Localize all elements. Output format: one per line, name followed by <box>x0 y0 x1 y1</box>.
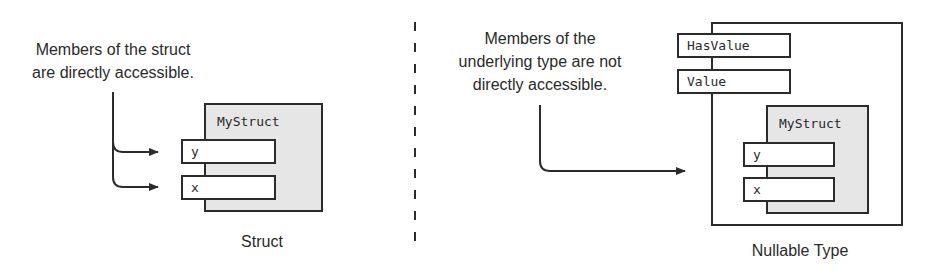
right-caption-line-2: underlying type are not <box>440 50 640 73</box>
field-hasvalue: HasValue <box>677 33 791 58</box>
field-value: Value <box>677 69 791 94</box>
right-caption: Members of the underlying type are not d… <box>440 27 640 96</box>
left-caption: Members of the struct are directly acces… <box>8 38 218 84</box>
left-field-x-label: x <box>191 180 199 195</box>
right-field-x-label: x <box>753 182 761 197</box>
right-mystruct-title: MyStruct <box>779 116 842 131</box>
right-arrow <box>540 105 685 171</box>
right-caption-line-1: Members of the <box>440 27 640 50</box>
left-caption-line-2: are directly accessible. <box>8 61 218 84</box>
left-mystruct-title: MyStruct <box>217 114 280 129</box>
left-field-y: y <box>181 139 276 164</box>
left-caption-line-1: Members of the struct <box>8 38 218 61</box>
left-arrow-group <box>113 92 158 187</box>
left-field-y-label: y <box>191 144 199 159</box>
right-caption-line-3: directly accessible. <box>440 73 640 96</box>
field-value-label: Value <box>687 74 726 89</box>
right-field-y-label: y <box>753 147 761 162</box>
left-footer-label: Struct <box>212 233 312 251</box>
right-field-y: y <box>743 142 835 167</box>
right-field-x: x <box>743 177 835 202</box>
right-footer-label: Nullable Type <box>740 242 860 260</box>
field-hasvalue-label: HasValue <box>687 38 750 53</box>
left-field-x: x <box>181 175 276 200</box>
